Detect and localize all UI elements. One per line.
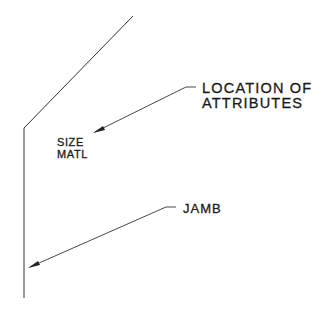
arrowhead-icon	[28, 261, 40, 268]
label-location-of: LOCATION OF	[202, 81, 312, 96]
label-attributes: ATTRIBUTES	[202, 96, 303, 111]
arrowhead-icon	[93, 126, 105, 133]
leader-location-of-attributes	[93, 87, 196, 133]
label-size: SIZE	[57, 137, 84, 148]
label-jamb: JAMB	[183, 202, 222, 215]
label-matl: MATL	[57, 149, 88, 160]
door-jamb-drawing	[0, 0, 321, 318]
drawing-canvas: LOCATION OF ATTRIBUTES SIZE MATL JAMB	[0, 0, 321, 318]
leader-jamb	[28, 207, 176, 268]
